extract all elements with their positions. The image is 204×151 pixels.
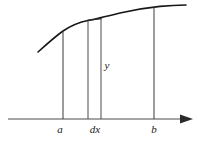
label-differential-dx: dx [90,123,101,135]
label-lower-limit-a: a [57,123,63,135]
integral-diagram-figure: a dx b y [0,0,204,151]
label-upper-limit-b: b [151,123,157,135]
x-axis-arrow-icon [180,115,193,124]
figure-canvas: a dx b y [0,0,204,151]
label-ordinate-y: y [104,59,110,71]
function-curve [38,5,186,52]
